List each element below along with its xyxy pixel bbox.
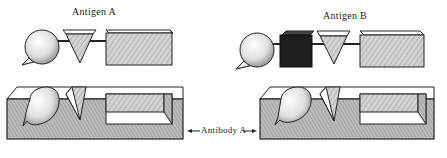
triangle-shape <box>66 34 93 63</box>
antibody-a-right <box>260 87 434 139</box>
box-shape <box>360 35 424 67</box>
sphere-shape <box>25 30 59 64</box>
triangle-shape <box>320 36 347 64</box>
antibody-a-left <box>7 87 183 139</box>
antigen-a <box>22 30 173 65</box>
antibody-a-label: Antibody A <box>201 125 246 135</box>
antigen-b <box>236 31 424 69</box>
sphere-shape <box>240 33 274 67</box>
box-shape <box>106 33 172 65</box>
antigen-a-label: Antigen A <box>72 6 116 17</box>
dark-cube-shape <box>280 35 312 67</box>
antigen-b-label: Antigen B <box>323 10 367 21</box>
